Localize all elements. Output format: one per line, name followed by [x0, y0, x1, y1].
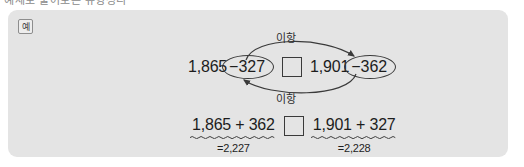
example-panel: 예 이항 1,865 −327 1,901 −362 이항 [8, 10, 508, 157]
cutoff-text-strip: 예제로 풀어보는 유형정리 [0, 0, 524, 5]
transposition-expression: 이항 1,865 −327 1,901 −362 이항 [188, 28, 388, 106]
label-transposition-bottom: 이항 [256, 90, 316, 106]
comparison-left-side: 1,865 + 362 =2,227 [190, 116, 277, 154]
right-expression: 1,901 + 327 [311, 116, 398, 135]
right-squiggly-underline [311, 135, 398, 139]
transposition-row: 1,865 −327 1,901 −362 [188, 54, 396, 80]
cutoff-text: 예제로 풀어보는 유형정리 [4, 0, 127, 5]
comparison-right-side: 1,901 + 327 =2,228 [311, 116, 398, 154]
left-squiggly-underline [190, 135, 277, 139]
left-result: =2,227 [217, 142, 250, 154]
comparison-expression: 1,865 + 362 =2,227 1,901 + 327 =2,228 [190, 116, 390, 162]
example-badge: 예 [18, 19, 33, 34]
right-result: =2,228 [338, 142, 371, 154]
operator-blank-top[interactable] [282, 57, 302, 77]
right-term-circled: −362 [344, 55, 396, 79]
label-transposition-top: 이항 [256, 29, 316, 45]
left-term-circled: −327 [222, 55, 274, 79]
left-expression: 1,865 + 362 [190, 116, 277, 135]
operator-blank-bottom[interactable] [284, 116, 304, 136]
comparison-row: 1,865 + 362 =2,227 1,901 + 327 =2,228 [190, 116, 390, 154]
